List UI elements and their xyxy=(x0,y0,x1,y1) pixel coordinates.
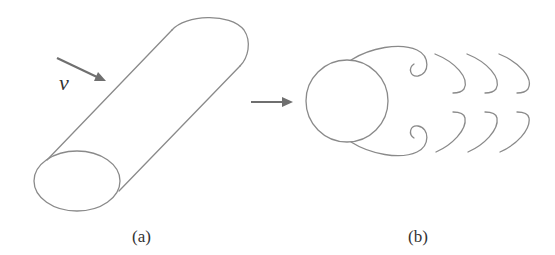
caption-a: (a) xyxy=(132,227,151,247)
lower-vortex-curl xyxy=(351,126,427,156)
velocity-label: v xyxy=(59,70,69,96)
cylinder-far-cap xyxy=(172,18,248,66)
cylinder xyxy=(34,18,248,211)
lower-vortex-arcs xyxy=(436,112,529,152)
cylinder-bottom-edge xyxy=(119,66,240,191)
caption-b: (b) xyxy=(408,227,428,247)
upper-vortex-curl xyxy=(351,46,427,76)
flow-arrow xyxy=(251,97,293,107)
upper-vortex-arcs xyxy=(435,54,529,93)
diagram-canvas xyxy=(0,0,555,255)
cylinder-cross-section xyxy=(306,60,388,142)
